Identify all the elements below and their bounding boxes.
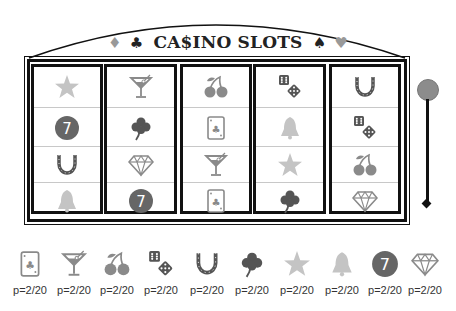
legend-item-martini: p=2/20 <box>51 246 97 296</box>
probability-label: p=2/20 <box>184 284 230 296</box>
probability-label: p=2/20 <box>274 284 320 296</box>
reel-cell <box>256 182 323 218</box>
reel-cell <box>107 107 174 147</box>
reel-cell <box>256 146 323 183</box>
reel-4 <box>253 64 326 214</box>
seven-icon: 7 <box>54 115 80 141</box>
star-icon <box>274 246 320 282</box>
svg-text:7: 7 <box>62 119 72 137</box>
card-icon: ♣ <box>203 115 229 141</box>
reel-cell <box>332 182 398 218</box>
star-icon <box>54 74 80 100</box>
reel-cell <box>256 67 323 107</box>
legend-item-diamond: p=2/20 <box>402 246 448 296</box>
reel-cell <box>332 67 398 107</box>
legend-item-card: ♣p=2/20 <box>7 246 53 296</box>
diamond-icon <box>128 152 154 178</box>
title-banner: ♦♣ CA$INO SLOTS ♠♥ <box>0 32 456 52</box>
reel-cell <box>107 146 174 183</box>
reels-frame: 77♣♣ <box>27 59 407 222</box>
reel-cell: ♣ <box>183 107 249 147</box>
svg-text:♣: ♣ <box>25 259 35 272</box>
cherries-icon <box>352 152 378 178</box>
lever-handle[interactable] <box>426 99 429 203</box>
reel-cell: ♣ <box>183 182 249 218</box>
bell-icon <box>54 188 80 214</box>
reel-3: ♣♣ <box>180 64 252 214</box>
card-icon: ♣ <box>203 188 229 214</box>
game-title: CA$INO SLOTS <box>153 32 302 52</box>
reel-cell <box>332 107 398 147</box>
dice-icon <box>352 115 378 141</box>
reel-cell: 7 <box>34 107 100 147</box>
probability-label: p=2/20 <box>94 284 140 296</box>
lever-pivot-icon <box>422 199 432 209</box>
lever-knob[interactable] <box>417 79 439 101</box>
legend-item-clover: p=2/20 <box>229 246 275 296</box>
reel-cell <box>107 67 174 107</box>
probability-label: p=2/20 <box>402 284 448 296</box>
probability-label: p=2/20 <box>7 284 53 296</box>
spade-suit-icon: ♠ <box>313 34 327 52</box>
reel-5 <box>329 64 401 214</box>
martini-icon <box>203 152 229 178</box>
cherries-icon <box>203 74 229 100</box>
legend-item-dice: p=2/20 <box>138 246 184 296</box>
legend-item-bell: p=2/20 <box>319 246 365 296</box>
seven-icon: 7 <box>128 188 154 214</box>
star-icon <box>277 152 303 178</box>
reel-cell <box>34 67 100 107</box>
svg-text:♣: ♣ <box>212 196 221 207</box>
svg-text:♣: ♣ <box>212 123 221 134</box>
bell-icon <box>277 115 303 141</box>
diamond-suit-icon: ♦ <box>108 34 122 52</box>
clover-icon <box>277 188 303 214</box>
probability-label: p=2/20 <box>319 284 365 296</box>
horseshoe-icon <box>54 152 80 178</box>
clover-icon <box>128 115 154 141</box>
cherries-icon <box>94 246 140 282</box>
legend-item-cherries: p=2/20 <box>94 246 140 296</box>
svg-text:7: 7 <box>136 192 146 210</box>
reel-2: 7 <box>104 64 177 214</box>
horseshoe-icon <box>184 246 230 282</box>
reel-cell <box>332 146 398 183</box>
diamond-icon <box>352 188 378 214</box>
card-icon: ♣ <box>7 246 53 282</box>
probability-label: p=2/20 <box>229 284 275 296</box>
horseshoe-icon <box>352 74 378 100</box>
probability-legend: ♣p=2/20p=2/20p=2/20p=2/20p=2/20p=2/20p=2… <box>0 246 456 306</box>
bell-icon <box>319 246 365 282</box>
reel-cell: 7 <box>107 182 174 218</box>
reel-cell <box>34 146 100 183</box>
reel-cell <box>34 182 100 218</box>
diamond-icon <box>402 246 448 282</box>
reel-cell <box>256 107 323 147</box>
svg-text:7: 7 <box>380 255 390 274</box>
martini-icon <box>128 74 154 100</box>
martini-icon <box>51 246 97 282</box>
legend-item-horseshoe: p=2/20 <box>184 246 230 296</box>
dice-icon <box>277 74 303 100</box>
probability-label: p=2/20 <box>51 284 97 296</box>
legend-item-star: p=2/20 <box>274 246 320 296</box>
reel-cell <box>183 67 249 107</box>
club-suit-icon: ♣ <box>130 34 144 52</box>
heart-suit-icon: ♥ <box>334 34 348 52</box>
reel-1: 7 <box>31 64 103 214</box>
reel-cell <box>183 146 249 183</box>
probability-label: p=2/20 <box>138 284 184 296</box>
clover-icon <box>229 246 275 282</box>
dice-icon <box>138 246 184 282</box>
